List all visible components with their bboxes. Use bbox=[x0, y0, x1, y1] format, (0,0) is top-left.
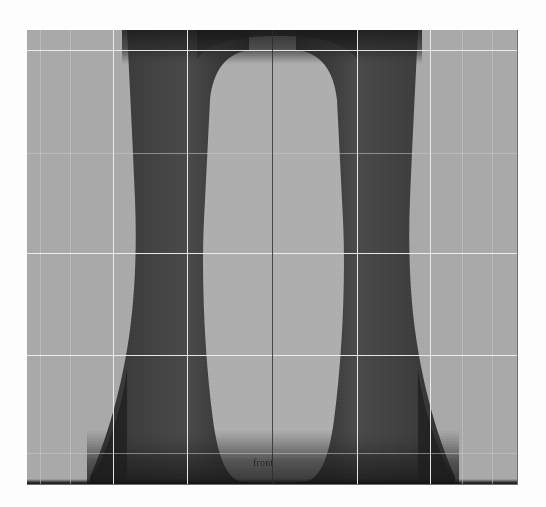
viewport-label: front bbox=[253, 458, 273, 468]
viewport-scene bbox=[27, 30, 517, 484]
scene-top-shadow bbox=[122, 30, 422, 64]
application-window: front bbox=[0, 0, 546, 507]
lathe-object bbox=[27, 30, 518, 485]
lathe-front-surface bbox=[203, 50, 344, 482]
viewport-front[interactable]: front bbox=[27, 30, 518, 485]
